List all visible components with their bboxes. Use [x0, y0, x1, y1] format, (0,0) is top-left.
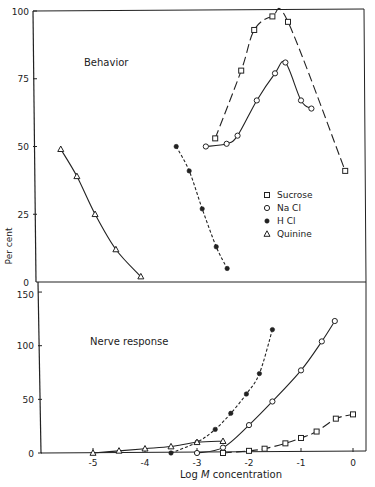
nerve-hcl-marker — [169, 451, 173, 455]
nerve-sucrose-marker — [262, 446, 267, 451]
nerve-sucrose-marker — [333, 416, 338, 421]
x-axis-label: Log M concentration — [180, 469, 282, 480]
behavior-nacl-marker — [254, 98, 259, 103]
behavior-sucrose-marker — [213, 136, 218, 141]
behavior-nacl-marker — [235, 133, 240, 138]
nerve-hcl-series — [169, 327, 275, 455]
legend-item: H Cl — [265, 216, 296, 226]
behavior-hcl-marker — [225, 266, 229, 270]
nerve-hcl-marker — [229, 411, 233, 415]
behavior-sucrose-line — [215, 8, 345, 170]
chart-figure: 0255075100 050100150 -5-4-3-2-10 Behavio… — [0, 0, 375, 487]
behavior-hcl-marker — [174, 144, 178, 148]
behavior-quinine-marker — [74, 173, 80, 179]
bottom-y-tick-label: 50 — [23, 395, 35, 405]
behavior-sucrose-marker — [239, 68, 244, 73]
nerve-quinine-line — [93, 441, 223, 453]
behavior-nacl-marker — [309, 106, 314, 111]
nerve-hcl-marker — [270, 327, 274, 331]
top-panel-title: Behavior — [84, 57, 129, 68]
bottom-y-tick-label: 0 — [28, 449, 34, 459]
top-y-tick-label: 75 — [18, 74, 29, 84]
behavior-nacl-series — [203, 60, 314, 149]
behavior-sucrose-marker — [270, 14, 275, 19]
behavior-quinine-series — [58, 146, 144, 279]
legend-item: Na Cl — [264, 203, 301, 213]
top-y-tick-label: 25 — [18, 210, 29, 220]
behavior-sucrose-marker — [343, 168, 348, 173]
behavior-nacl-marker — [272, 71, 277, 76]
top-y-tick-label: 50 — [18, 142, 30, 152]
y-axis-label: Per cent — [4, 227, 14, 264]
behavior-nacl-marker — [283, 60, 288, 65]
behavior-hcl-marker — [187, 169, 191, 173]
x-tick-label: -5 — [89, 458, 98, 468]
top-y-tick-label: 100 — [12, 7, 29, 17]
legend-circle-marker — [264, 205, 269, 210]
nerve-sucrose-marker — [351, 412, 356, 417]
nerve-sucrose-marker — [299, 435, 304, 440]
bottom-panel-frame — [38, 282, 366, 453]
nerve-sucrose-marker — [314, 429, 319, 434]
behavior-hcl-marker — [200, 207, 204, 211]
top-panel-frame — [33, 9, 366, 282]
legend-label: Sucrose — [277, 190, 313, 200]
legend-item: Quinine — [264, 229, 312, 239]
behavior-nacl-marker — [298, 98, 303, 103]
nerve-nacl-series — [194, 318, 337, 455]
legend-label: H Cl — [277, 216, 295, 226]
legend: SucroseNa ClH ClQuinine — [264, 190, 313, 239]
behavior-sucrose-marker — [286, 19, 291, 24]
top-y-tick-label: 0 — [23, 278, 29, 288]
behavior-nacl-line — [206, 61, 312, 146]
x-tick-label: -3 — [193, 458, 202, 468]
nerve-sucrose-marker — [221, 451, 226, 456]
nerve-nacl-marker — [194, 450, 199, 455]
behavior-hcl-marker — [214, 245, 218, 249]
legend-dot-marker — [265, 219, 269, 223]
nerve-hcl-marker — [257, 371, 261, 375]
nerve-nacl-marker — [220, 445, 225, 450]
behavior-sucrose-marker — [252, 27, 257, 32]
bottom-y-tick-label: 150 — [17, 290, 34, 300]
nerve-nacl-marker — [332, 318, 337, 323]
nerve-sucrose-marker — [283, 441, 288, 446]
nerve-nacl-marker — [270, 399, 275, 404]
x-tick-label: -2 — [245, 458, 254, 468]
bottom-y-tick-label: 100 — [17, 341, 34, 351]
legend-triangle-marker — [264, 231, 270, 237]
nerve-hcl-line — [171, 330, 272, 453]
behavior-quinine-line — [61, 149, 141, 276]
nerve-nacl-marker — [246, 423, 251, 428]
x-tick-label: -1 — [297, 458, 306, 468]
bottom-panel-title: Nerve response — [90, 336, 168, 347]
legend-label: Quinine — [277, 229, 312, 239]
nerve-nacl-marker — [298, 368, 303, 373]
x-tick-label: -4 — [141, 458, 150, 468]
x-tick-label: 0 — [350, 458, 356, 468]
behavior-nacl-marker — [224, 141, 229, 146]
behavior-hcl-series — [174, 144, 229, 270]
nerve-nacl-marker — [319, 339, 324, 344]
legend-square-marker — [265, 193, 270, 198]
behavior-quinine-marker — [58, 146, 64, 152]
nerve-sucrose-marker — [247, 448, 252, 453]
legend-item: Sucrose — [265, 190, 314, 200]
nerve-hcl-marker — [213, 427, 217, 431]
behavior-nacl-marker — [203, 144, 208, 149]
behavior-sucrose-series — [213, 8, 348, 173]
legend-label: Na Cl — [277, 203, 301, 213]
nerve-hcl-marker — [244, 392, 248, 396]
behavior-quinine-marker — [92, 211, 98, 217]
